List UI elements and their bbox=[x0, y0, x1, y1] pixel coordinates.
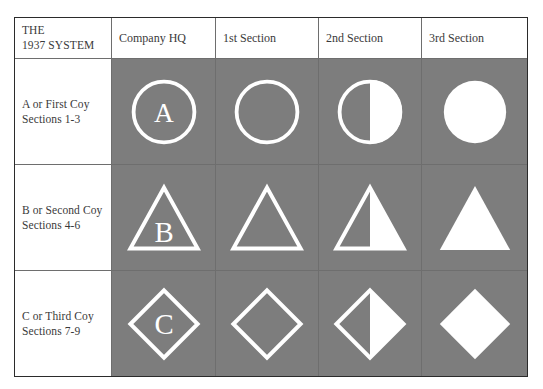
column-header-label: Company HQ bbox=[119, 31, 186, 46]
diamond-outline-with-letter-c-icon: C bbox=[124, 284, 204, 364]
triangle-outline-with-letter-b-cell: B bbox=[111, 165, 215, 270]
corner-title-line-1: THE bbox=[22, 23, 111, 38]
triangle-filled-cell bbox=[421, 165, 527, 270]
symbol-letter: C bbox=[154, 308, 173, 340]
triangle-half-filled-cell bbox=[318, 165, 421, 270]
column-header-1st-section: 1st Section bbox=[215, 18, 318, 58]
diamond-outline-icon bbox=[227, 284, 307, 364]
row-label-line-2: Sections 4-6 bbox=[22, 218, 111, 233]
table-row: C or Third Coy Sections 7-9 C bbox=[15, 270, 527, 376]
column-header-2nd-section: 2nd Section bbox=[318, 18, 421, 58]
triangle-outline-cell bbox=[215, 165, 318, 270]
circle-outline-icon bbox=[229, 74, 305, 150]
row-label-line-2: Sections 1-3 bbox=[22, 112, 111, 127]
row-label-b-second-coy: B or Second Coy Sections 4-6 bbox=[15, 165, 111, 270]
column-header-label: 3rd Section bbox=[429, 31, 484, 46]
corner-title-line-2: 1937 SYSTEM bbox=[22, 38, 111, 53]
symbol-letter: B bbox=[154, 216, 173, 248]
circle-half-filled-icon bbox=[332, 74, 408, 150]
symbol-letter: A bbox=[154, 97, 174, 127]
circle-filled-icon bbox=[437, 74, 513, 150]
column-header-label: 2nd Section bbox=[326, 31, 383, 46]
column-header-3rd-section: 3rd Section bbox=[421, 18, 527, 58]
circle-filled-cell bbox=[421, 59, 527, 164]
row-label-line-1: B or Second Coy bbox=[22, 203, 111, 218]
column-header-company-hq: Company HQ bbox=[111, 18, 215, 58]
diamond-half-filled-icon bbox=[330, 284, 410, 364]
tactical-signs-table: THE 1937 SYSTEM Company HQ 1st Section 2… bbox=[14, 17, 528, 377]
table-header-row: THE 1937 SYSTEM Company HQ 1st Section 2… bbox=[15, 18, 527, 58]
diamond-filled-cell bbox=[421, 271, 527, 376]
triangle-filled-icon bbox=[435, 181, 515, 255]
row-label-line-1: A or First Coy bbox=[22, 97, 111, 112]
triangle-outline-icon bbox=[227, 181, 307, 255]
table-row: B or Second Coy Sections 4-6 B bbox=[15, 164, 527, 270]
diamond-outline-cell bbox=[215, 271, 318, 376]
table-corner-title: THE 1937 SYSTEM bbox=[15, 18, 111, 58]
table-row: A or First Coy Sections 1-3 A bbox=[15, 58, 527, 164]
circle-outline-with-letter-a-cell: A bbox=[111, 59, 215, 164]
triangle-outline-with-letter-b-icon: B bbox=[124, 181, 204, 255]
row-label-a-first-coy: A or First Coy Sections 1-3 bbox=[15, 59, 111, 164]
row-label-line-2: Sections 7-9 bbox=[22, 324, 111, 339]
row-label-c-third-coy: C or Third Coy Sections 7-9 bbox=[15, 271, 111, 376]
circle-half-filled-cell bbox=[318, 59, 421, 164]
diamond-half-filled-cell bbox=[318, 271, 421, 376]
column-header-label: 1st Section bbox=[223, 31, 276, 46]
circle-outline-cell bbox=[215, 59, 318, 164]
triangle-half-filled-icon bbox=[330, 181, 410, 255]
diamond-filled-icon bbox=[435, 284, 515, 364]
diamond-outline-with-letter-c-cell: C bbox=[111, 271, 215, 376]
row-label-line-1: C or Third Coy bbox=[22, 309, 111, 324]
circle-outline-with-letter-a-icon: A bbox=[126, 74, 202, 150]
